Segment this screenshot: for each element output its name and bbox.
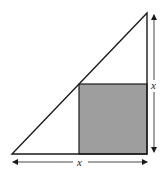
shaded-square: [79, 84, 147, 154]
horizontal-dimension-label: x: [76, 156, 82, 168]
vertical-dimension-label: x: [150, 79, 156, 91]
diagram-canvas: x x: [0, 0, 166, 171]
